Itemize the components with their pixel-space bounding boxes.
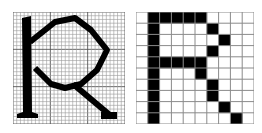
filled-pixel-cell	[160, 57, 172, 69]
fine-grid-r-glyph-icon	[13, 12, 125, 124]
filled-pixel-cell	[219, 102, 231, 114]
filled-pixel-cell	[219, 34, 231, 46]
filled-pixel-cell	[148, 102, 160, 114]
filled-pixel-cell	[230, 113, 242, 124]
filled-pixel-cell	[148, 90, 160, 102]
filled-pixel-cell	[148, 34, 160, 46]
filled-pixel-cell	[171, 57, 183, 69]
filled-pixel-cell	[183, 12, 195, 24]
filled-pixel-cell	[148, 79, 160, 91]
filled-pixel-cell	[195, 12, 207, 24]
filled-pixel-cell	[148, 68, 160, 80]
filled-pixel-cell	[171, 12, 183, 24]
filled-pixel-cell	[195, 57, 207, 69]
filled-pixel-cell	[148, 12, 160, 24]
filled-pixel-cell	[183, 57, 195, 69]
filled-pixel-cell	[148, 23, 160, 35]
filled-pixel-cell	[148, 57, 160, 69]
fine-grid-letter-panel	[13, 12, 125, 124]
filled-pixel-cell	[207, 79, 219, 91]
filled-pixel-cell	[148, 46, 160, 58]
filled-pixel-cell	[195, 68, 207, 80]
filled-pixel-cell	[207, 23, 219, 35]
pixelated-r-glyph-icon	[136, 12, 254, 124]
filled-pixel-cell	[160, 12, 172, 24]
filled-pixel-cell	[207, 90, 219, 102]
filled-pixel-cell	[148, 113, 160, 124]
filled-pixel-cell	[207, 46, 219, 58]
coarse-pixel-letter-panel	[136, 12, 254, 124]
